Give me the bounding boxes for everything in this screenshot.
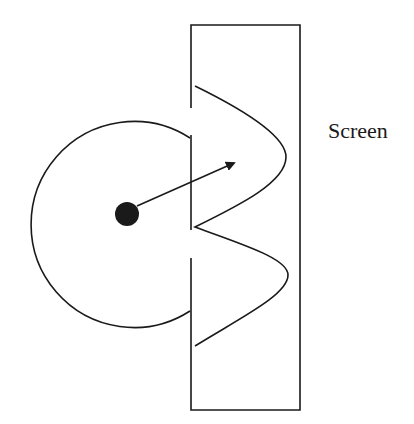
screen-label: Screen <box>328 118 388 143</box>
propagation-arrow <box>137 163 234 206</box>
screen-rectangle <box>191 25 300 410</box>
point-source <box>115 202 139 226</box>
circular-wavefront <box>31 122 190 328</box>
wave-pattern <box>195 86 288 346</box>
diagram-canvas: Screen <box>0 0 414 424</box>
